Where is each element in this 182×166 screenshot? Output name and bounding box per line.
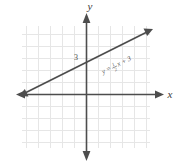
y-axis: [83, 13, 91, 161]
equation-denominator: 2: [113, 67, 118, 73]
y-axis-label: y: [87, 0, 93, 12]
equation-label: y = 1 2 x + 3: [99, 54, 134, 78]
graph-canvas: 3 x y y = 1 2 x + 3: [0, 0, 182, 166]
x-axis-arrow-right: [155, 91, 164, 99]
x-axis-label: x: [167, 88, 173, 100]
y-axis-arrow-down: [83, 151, 91, 161]
y-axis-arrow-up: [83, 13, 91, 23]
equation-rest: x + 3: [115, 54, 133, 68]
y-intercept-label: 3: [74, 53, 78, 62]
linear-function-graph: 3 x y y = 1 2 x + 3: [0, 0, 182, 166]
